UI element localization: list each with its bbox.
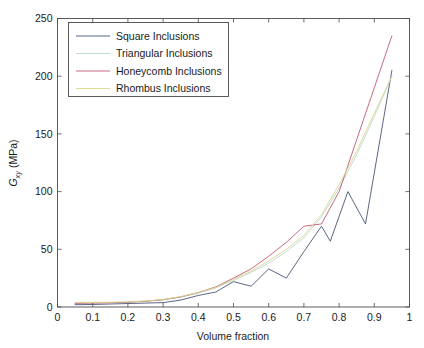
legend-label-2[interactable]: Honeycomb Inclusions bbox=[116, 65, 222, 77]
figure-container: 00.10.20.30.40.50.60.70.80.9105010015020… bbox=[0, 0, 424, 348]
chart-legend[interactable]: Square InclusionsTriangular InclusionsHo… bbox=[69, 23, 229, 97]
x-tick-label: 0.9 bbox=[367, 311, 382, 323]
legend-label-0[interactable]: Square Inclusions bbox=[116, 30, 199, 42]
x-tick-label: 1 bbox=[407, 311, 413, 323]
x-tick-label: 0.2 bbox=[121, 311, 136, 323]
y-tick-label: 200 bbox=[35, 70, 53, 82]
y-tick-label: 50 bbox=[41, 243, 53, 255]
x-tick-label: 0.8 bbox=[332, 311, 347, 323]
x-tick-label: 0.7 bbox=[297, 311, 312, 323]
y-tick-label: 250 bbox=[35, 12, 53, 24]
x-axis-label: Volume fraction bbox=[197, 330, 270, 342]
x-tick-label: 0.3 bbox=[156, 311, 171, 323]
legend-label-3[interactable]: Rhombus Inclusions bbox=[116, 82, 211, 94]
shear-modulus-line-chart: 00.10.20.30.40.50.60.70.80.9105010015020… bbox=[0, 0, 424, 348]
x-tick-label: 0.5 bbox=[226, 311, 241, 323]
y-tick-label: 150 bbox=[35, 128, 53, 140]
legend-label-1[interactable]: Triangular Inclusions bbox=[116, 47, 213, 59]
x-tick-label: 0.1 bbox=[85, 311, 100, 323]
x-tick-label: 0.6 bbox=[261, 311, 276, 323]
x-tick-label: 0.4 bbox=[191, 311, 206, 323]
y-axis-label-unit: (MPa) bbox=[7, 139, 19, 171]
y-tick-label: 0 bbox=[47, 301, 53, 313]
y-tick-label: 100 bbox=[35, 185, 53, 197]
y-axis-label-symbol: G bbox=[7, 178, 19, 186]
x-tick-label: 0 bbox=[55, 311, 61, 323]
